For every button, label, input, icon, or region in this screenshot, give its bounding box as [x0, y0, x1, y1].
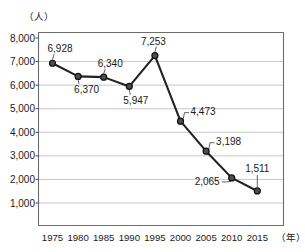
x-axis-tick-label: 1975 — [42, 232, 63, 243]
data-point-marker — [178, 118, 184, 124]
x-axis-tick-label: 2015 — [247, 232, 268, 243]
data-point-marker — [152, 53, 158, 59]
data-point-marker — [254, 188, 260, 194]
data-point-marker — [126, 83, 132, 89]
data-point-label: 2,065 — [195, 176, 220, 187]
data-label-leader — [104, 69, 106, 74]
data-label-leader — [129, 90, 130, 95]
data-point-markers — [50, 53, 261, 194]
gridlines — [39, 62, 284, 203]
data-label-leader — [53, 54, 55, 60]
line-chart: （人） 8,0007,0006,0005,0004,0003,0002,0001… — [0, 0, 305, 252]
x-axis-tick-label: 2005 — [195, 232, 216, 243]
x-axis-tick-label: 1980 — [67, 232, 88, 243]
data-label-leader — [183, 113, 189, 120]
data-point-label: 1,511 — [245, 163, 270, 174]
data-point-marker — [229, 175, 235, 181]
series-polyline — [53, 56, 258, 191]
x-axis-tick-label: 1995 — [144, 232, 165, 243]
data-point-label: 3,198 — [216, 136, 241, 147]
chart-canvas: （人） 8,0007,0006,0005,0004,0003,0002,0001… — [0, 0, 305, 252]
x-axis-tick-label: 1985 — [93, 232, 114, 243]
data-point-marker — [101, 74, 107, 80]
data-label-leader-lines — [53, 47, 258, 188]
data-series-line — [53, 56, 258, 191]
data-point-label: 6,340 — [98, 58, 123, 69]
y-axis-tick-label: 4,000 — [10, 127, 35, 138]
y-axis-ticks: 8,0007,0006,0005,0004,0003,0002,0001,000 — [10, 33, 39, 209]
data-point-label: 6,928 — [48, 43, 73, 54]
y-axis-unit-label: （人） — [24, 11, 54, 22]
y-axis-tick-label: 5,000 — [10, 103, 35, 114]
x-axis-unit-label: （年） — [276, 232, 305, 243]
data-point-label: 5,947 — [123, 95, 148, 106]
x-axis-tick-label: 1990 — [119, 232, 140, 243]
data-point-marker — [75, 73, 81, 79]
data-point-label: 7,253 — [141, 36, 166, 47]
y-axis-tick-label: 8,000 — [10, 33, 35, 44]
data-point-marker — [50, 60, 56, 66]
y-axis-tick-label: 3,000 — [10, 150, 35, 161]
y-axis-tick-label: 6,000 — [10, 80, 35, 91]
data-point-label: 4,473 — [191, 106, 216, 117]
x-axis-tick-label: 2010 — [221, 232, 242, 243]
y-axis-tick-label: 2,000 — [10, 174, 35, 185]
data-label-leader — [222, 181, 231, 182]
data-point-labels: 6,9286,3706,3405,9477,2534,4733,1982,065… — [48, 36, 270, 187]
y-axis-tick-label: 7,000 — [10, 56, 35, 67]
data-point-label: 6,370 — [74, 84, 99, 95]
x-axis-tick-label: 2000 — [170, 232, 191, 243]
x-axis-ticks: 197519801985199019952000200520102015 — [42, 232, 268, 243]
y-axis-tick-label: 1,000 — [10, 198, 35, 209]
data-label-leader — [78, 80, 79, 84]
data-point-marker — [203, 148, 209, 154]
data-label-leader — [209, 143, 215, 150]
data-label-leader — [155, 47, 157, 53]
